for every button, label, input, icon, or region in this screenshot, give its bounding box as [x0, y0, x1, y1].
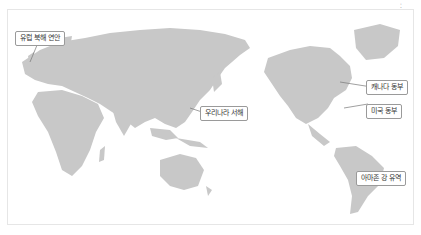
callout-usa: 미국 동부 [366, 104, 402, 119]
callout-amazon: 아마존 강 유역 [356, 171, 406, 186]
corner-mark: ⁚ [400, 2, 402, 9]
callout-europe: 유럽 북해 연안 [15, 31, 65, 46]
callout-canada: 캐나다 동부 [366, 80, 408, 95]
north-america [264, 46, 352, 124]
australia [160, 154, 204, 190]
callout-korea: 우리나라 서해 [200, 106, 248, 121]
africa [32, 90, 104, 176]
